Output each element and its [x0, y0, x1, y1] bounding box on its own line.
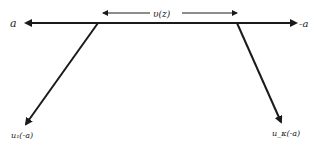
label-u1-minus-a: u₁(-a) [11, 131, 33, 140]
right-slant-arrow [237, 23, 281, 122]
label-minus-a: -a [299, 18, 308, 29]
label-uk-minus-a: u_κ(-a) [272, 129, 300, 138]
label-span-v-z: υ(z) [153, 9, 171, 19]
left-slant-arrow [26, 23, 98, 124]
label-a: a [10, 17, 17, 30]
diagram-canvas: a -a υ(z) u₁(-a) u_κ(-a) [0, 0, 322, 149]
